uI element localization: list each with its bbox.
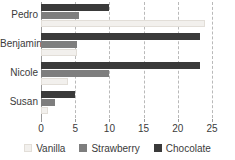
bar-nicole-chocolate (41, 62, 200, 69)
legend-label-vanilla: Vanilla (36, 143, 65, 154)
x-tick-label-25: 25 (206, 123, 217, 134)
y-axis-label-nicole: Nicole (0, 67, 38, 78)
chart-legend: Vanilla Strawberry Chocolate (0, 140, 235, 156)
x-tick-mark-5 (75, 119, 76, 122)
legend-item-strawberry: Strawberry (79, 143, 139, 154)
y-axis-label-pedro: Pedro (0, 9, 38, 20)
bar-susan-chocolate (41, 91, 75, 98)
bar-pedro-chocolate (41, 4, 109, 11)
x-tick-mark-10 (109, 119, 110, 122)
bar-susan-strawberry (41, 99, 55, 106)
bar-pedro-strawberry (41, 12, 79, 19)
bar-group-benjamin (41, 31, 212, 60)
y-axis-label-susan: Susan (0, 96, 38, 107)
legend-item-vanilla: Vanilla (24, 143, 65, 154)
legend-item-chocolate: Chocolate (154, 143, 211, 154)
gridline-25 (212, 2, 213, 118)
x-tick-mark-0 (41, 119, 42, 122)
bar-benjamin-vanilla (41, 49, 77, 56)
bar-nicole-vanilla (41, 78, 68, 85)
x-tick-label-0: 0 (38, 123, 44, 134)
x-axis: 0 5 10 15 20 25 (41, 119, 212, 137)
legend-swatch-vanilla-icon (24, 144, 32, 152)
legend-label-chocolate: Chocolate (166, 143, 211, 154)
bar-nicole-strawberry (41, 70, 109, 77)
y-axis-labels: Pedro Benjamin Nicole Susan (0, 2, 38, 118)
bar-pedro-vanilla (41, 20, 205, 27)
x-tick-mark-15 (144, 119, 145, 122)
legend-swatch-chocolate-icon (154, 144, 162, 152)
x-tick-label-20: 20 (172, 123, 183, 134)
bar-group-nicole (41, 60, 212, 89)
x-tick-label-10: 10 (104, 123, 115, 134)
x-tick-mark-20 (178, 119, 179, 122)
x-tick-mark-25 (212, 119, 213, 122)
bar-chart: Pedro Benjamin Nicole Susan (0, 0, 235, 160)
x-tick-label-15: 15 (138, 123, 149, 134)
bar-benjamin-strawberry (41, 41, 77, 48)
legend-swatch-strawberry-icon (79, 144, 87, 152)
y-axis-label-benjamin: Benjamin (0, 38, 38, 49)
bar-group-pedro (41, 2, 212, 31)
bar-benjamin-chocolate (41, 33, 200, 40)
bar-group-susan (41, 89, 212, 118)
x-tick-label-5: 5 (72, 123, 78, 134)
bar-susan-vanilla (41, 107, 48, 114)
legend-label-strawberry: Strawberry (91, 143, 139, 154)
plot-area (41, 2, 212, 118)
